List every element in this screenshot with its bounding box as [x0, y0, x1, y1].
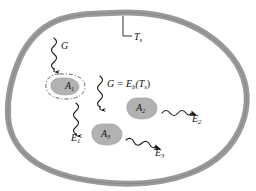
emission-e3-label: E3 — [155, 148, 164, 158]
surface-a2-label: A2 — [136, 103, 145, 113]
cavity-temperature-label: Ts — [134, 32, 142, 42]
irradiation-relation-label: G = Eb(Ts) — [107, 79, 150, 89]
emission-arrow-a2 — [162, 111, 196, 116]
irradiation-arrow-center — [98, 76, 103, 110]
figure-canvas — [0, 0, 256, 191]
surface-a1-label: A1 — [65, 81, 74, 91]
temperature-leader-line — [123, 16, 132, 36]
radiation-cavity-figure: G Ts G = Eb(Ts) A1 A2 A3 E1 E2 E3 — [0, 0, 256, 191]
surface-a3-label: A3 — [101, 129, 110, 139]
emission-e1-label: E1 — [71, 133, 80, 143]
irradiation-label-g: G — [61, 41, 68, 51]
cavity-wall-band — [8, 13, 247, 184]
cavity-wall — [8, 13, 247, 184]
irradiation-arrow-top — [52, 38, 57, 72]
emission-e2-label: E2 — [192, 114, 201, 124]
